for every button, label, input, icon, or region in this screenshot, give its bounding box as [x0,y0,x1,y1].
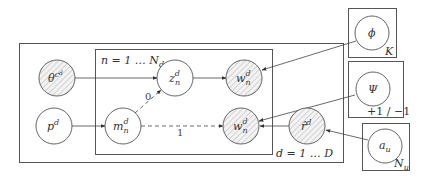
phi-plate-label: K [384,45,394,58]
node-r-hat: r̂d [289,108,325,144]
svg-text:zdn: zdn [168,69,180,87]
node-m: mdn [105,108,141,144]
edge-label-zero: 0 [145,91,151,102]
svg-text:mdn: mdn [113,117,129,135]
node-w-bottom: wdn [223,108,259,144]
node-p: pd [36,108,72,144]
edge-label-one: 1 [177,127,183,138]
svg-text:wdn: wdn [236,69,251,87]
edge-phi-to-w-top [262,41,356,70]
node-a-u: au [368,129,402,163]
svg-text:wdn: wdn [233,117,248,135]
inner-plate-label: n = 1 … Nd [101,54,164,69]
graphical-model-diagram: d = 1 … D n = 1 … Nd K +1 / −1 Nu 0 1 θc… [0,0,428,180]
outer-plate-label: d = 1 … D [276,147,333,160]
svg-text:Ψ: Ψ [368,83,378,96]
edge-a-to-rhat [326,130,368,140]
node-z: zdn [157,60,193,96]
psi-plate-label: +1 / −1 [367,105,410,118]
node-w-top: wdn [226,60,262,96]
svg-text:ϕ: ϕ [368,27,376,40]
node-phi: ϕ [355,16,389,50]
node-psi: Ψ [356,72,390,106]
node-theta: θcd [39,60,75,96]
